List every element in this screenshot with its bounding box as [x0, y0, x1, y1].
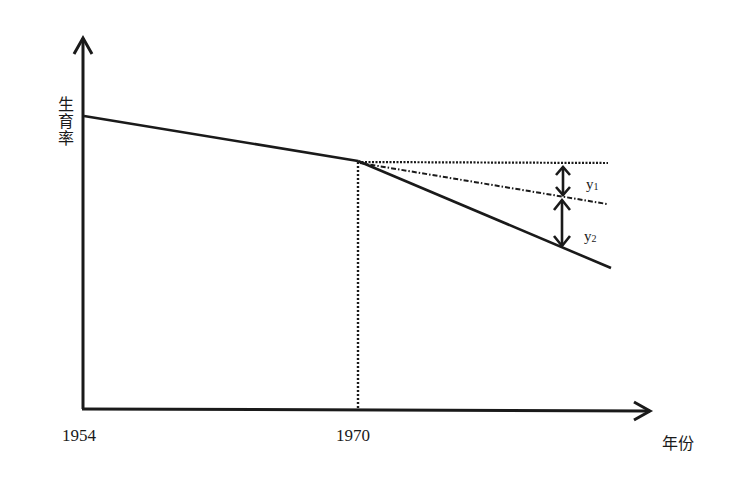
y2-double-arrow-icon: [554, 200, 570, 246]
y1-subscript: 1: [594, 181, 599, 192]
series-pre-1970-line: [84, 116, 358, 161]
y2-annotation: y2: [584, 228, 597, 245]
y2-base: y: [584, 228, 592, 244]
series-trend-dashdot-line: [360, 163, 607, 204]
x-tick-1970: 1970: [336, 426, 370, 446]
y1-double-arrow-icon: [556, 167, 570, 195]
y1-annotation: y1: [586, 176, 599, 193]
x-axis: [82, 409, 650, 411]
x-tick-1954: 1954: [62, 426, 96, 446]
series-baseline-dotted-line: [358, 162, 608, 163]
fertility-rate-diagram: [0, 0, 740, 484]
y1-base: y: [586, 176, 594, 192]
x-axis-label: 年份: [662, 430, 694, 454]
series-post-1970-line: [358, 161, 611, 268]
y2-subscript: 2: [592, 233, 597, 244]
y-axis-label: 生育率: [54, 96, 74, 147]
